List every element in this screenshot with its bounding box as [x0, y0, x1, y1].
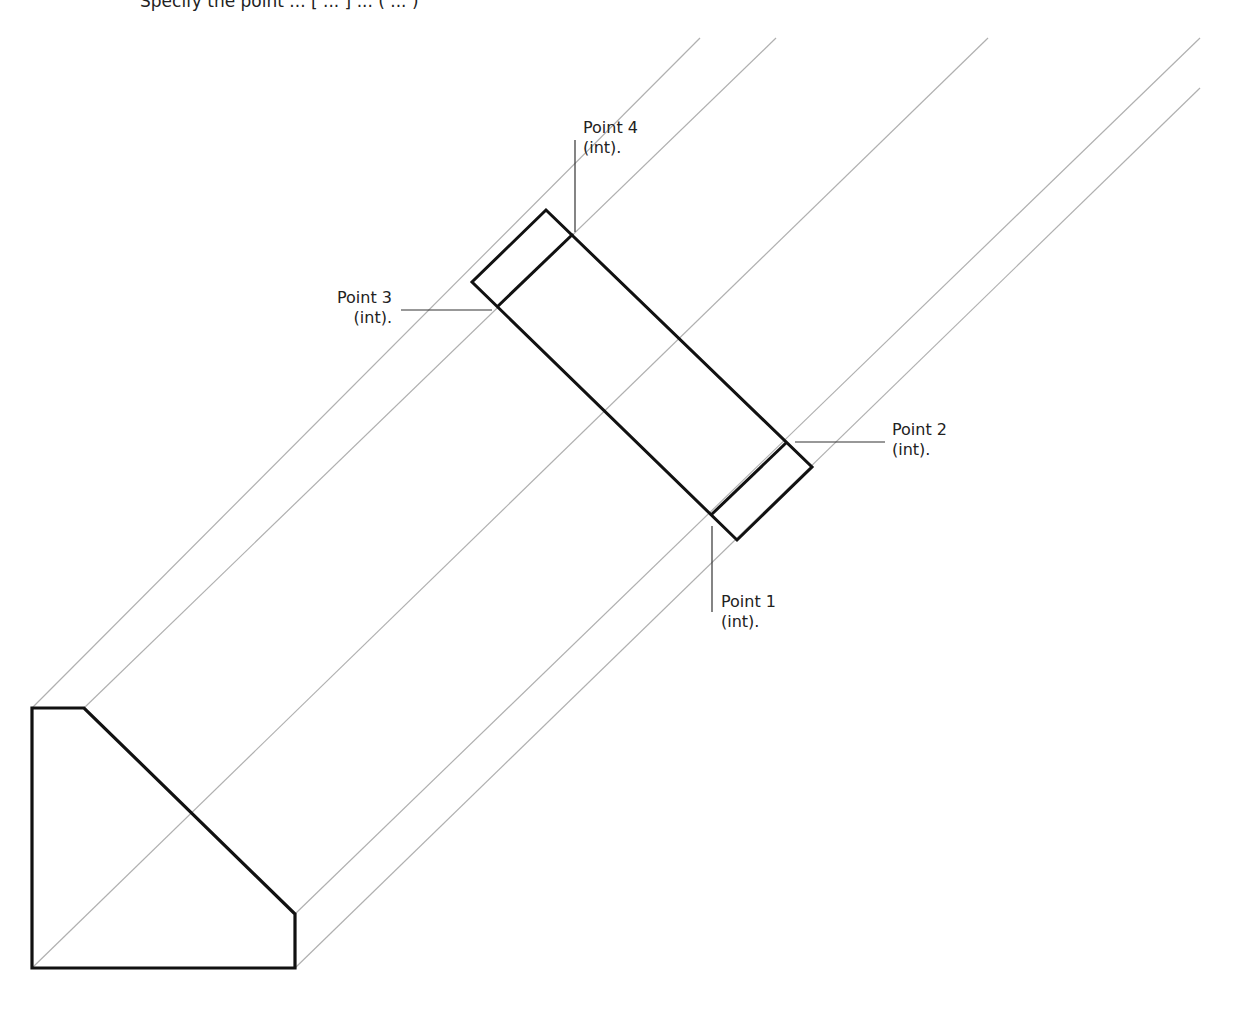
label-point-2: Point 2 (int). [892, 420, 947, 460]
label-text: Point 3 [318, 288, 392, 308]
label-point-3: Point 3 (int). [318, 288, 392, 328]
label-point-4: Point 4 (int). [583, 118, 638, 158]
label-subtext: (int). [721, 612, 776, 632]
leader-lines [401, 140, 885, 612]
label-text: Point 2 [892, 420, 947, 440]
label-text: Point 1 [721, 592, 776, 612]
label-subtext: (int). [892, 440, 947, 460]
label-point-1: Point 1 (int). [721, 592, 776, 632]
label-subtext: (int). [583, 138, 638, 158]
label-subtext: (int). [318, 308, 392, 328]
label-text: Point 4 [583, 118, 638, 138]
